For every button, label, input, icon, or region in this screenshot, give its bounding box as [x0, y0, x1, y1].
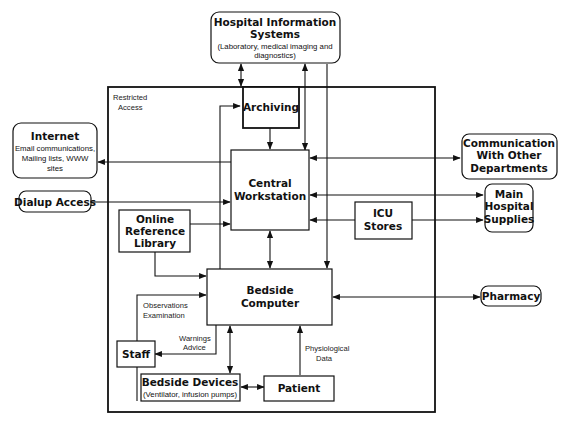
node-main-hospital-supplies[interactable]: Main Hospital Supplies [484, 184, 535, 232]
svg-text:Email communications,: Email communications, [15, 144, 95, 153]
node-patient[interactable]: Patient [264, 376, 334, 401]
svg-text:Supplies: Supplies [484, 213, 535, 225]
library-bedside-link [155, 252, 206, 276]
node-hospital-information-systems[interactable]: Hospital Information Systems (Laboratory… [211, 12, 340, 63]
svg-text:Workstation: Workstation [234, 190, 306, 202]
svg-text:Computer: Computer [241, 297, 300, 309]
svg-text:Archiving: Archiving [243, 101, 299, 113]
node-archiving[interactable]: Archiving [243, 87, 299, 128]
label-physiological: Physiological [305, 344, 350, 353]
node-dialup-access[interactable]: Dialup Access [14, 191, 96, 212]
node-communication-other-departments[interactable]: Communication With Other Departments [462, 134, 557, 179]
svg-text:Systems: Systems [250, 28, 300, 40]
svg-text:diagnostics): diagnostics) [254, 51, 296, 60]
svg-text:Reference: Reference [125, 225, 185, 237]
label-data: Data [316, 354, 333, 363]
svg-text:Mailing lists, WWW: Mailing lists, WWW [22, 154, 89, 163]
svg-text:With Other: With Other [476, 149, 542, 161]
node-pharmacy[interactable]: Pharmacy [481, 286, 541, 306]
node-bedside-computer[interactable]: Bedside Computer [207, 269, 332, 325]
svg-text:Internet: Internet [31, 130, 79, 142]
svg-text:Library: Library [134, 237, 176, 249]
svg-text:Staff: Staff [122, 348, 151, 360]
svg-text:Online: Online [136, 213, 174, 225]
svg-text:Hospital Information: Hospital Information [214, 16, 336, 28]
label-examination: Examination [143, 311, 185, 320]
label-advice: Advice [183, 343, 206, 352]
node-internet[interactable]: Internet Email communications, Mailing l… [13, 123, 97, 178]
svg-text:(Laboratory, medical imaging a: (Laboratory, medical imaging and [217, 42, 332, 51]
node-online-reference-library[interactable]: Online Reference Library [119, 210, 190, 252]
label-observations: Observations [143, 301, 188, 310]
svg-text:Stores: Stores [364, 220, 402, 232]
label-warnings: Warnings [179, 334, 211, 343]
node-bedside-devices[interactable]: Bedside Devices (Ventilator, infusion pu… [141, 374, 240, 401]
svg-text:Communication: Communication [463, 137, 555, 149]
svg-text:Access: Access [118, 103, 143, 112]
svg-text:Pharmacy: Pharmacy [482, 290, 541, 302]
system-diagram: Restricted Access Hospital Information S… [0, 0, 572, 425]
node-icu-stores[interactable]: ICU Stores [355, 202, 412, 239]
svg-text:(Ventilator, infusion pumps): (Ventilator, infusion pumps) [143, 390, 237, 399]
svg-text:Patient: Patient [278, 382, 321, 394]
node-staff[interactable]: Staff [117, 341, 155, 367]
svg-text:Bedside Devices: Bedside Devices [142, 376, 239, 388]
svg-text:Hospital: Hospital [484, 200, 533, 212]
svg-text:Departments: Departments [470, 162, 547, 174]
svg-text:Central: Central [248, 177, 291, 189]
svg-text:Dialup Access: Dialup Access [14, 196, 96, 208]
svg-text:ICU: ICU [373, 207, 393, 219]
boundary-label: Restricted [113, 93, 147, 102]
svg-text:sites: sites [47, 164, 63, 173]
node-central-workstation[interactable]: Central Workstation [231, 150, 309, 230]
svg-text:Bedside: Bedside [246, 284, 293, 296]
svg-text:Main: Main [495, 188, 524, 200]
